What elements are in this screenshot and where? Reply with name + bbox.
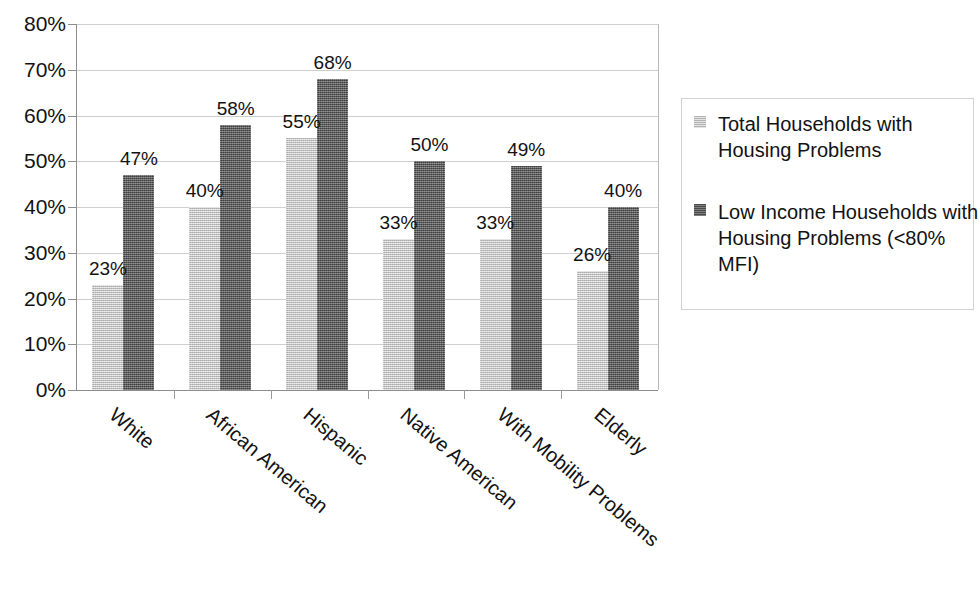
- y-axis-tick-mark: [68, 70, 77, 71]
- legend-item-label: Total Households with Housing Problems: [718, 111, 980, 163]
- bar-value-label: 49%: [498, 140, 554, 159]
- bar-value-label: 40%: [177, 181, 233, 200]
- bar-value-label: 26%: [564, 245, 620, 264]
- x-axis-tick-label: Elderly: [591, 404, 651, 459]
- legend-swatch-icon: [694, 204, 706, 216]
- bar-value-label: 68%: [305, 53, 361, 72]
- y-axis-tick-mark: [68, 116, 77, 117]
- y-axis-tick-mark: [68, 207, 77, 208]
- bar-value-label: 55%: [274, 112, 330, 131]
- legend-swatch-icon: [694, 116, 706, 128]
- x-axis-tick-mark: [271, 390, 272, 399]
- y-axis-tick-mark: [68, 161, 77, 162]
- legend-item-label: Low Income Households with Housing Probl…: [718, 199, 980, 277]
- bar-value-label: 47%: [111, 149, 167, 168]
- y-axis-tick-mark: [68, 24, 77, 25]
- x-axis-tick-mark: [464, 390, 465, 399]
- x-axis-tick-mark: [368, 390, 369, 399]
- y-axis-tick-mark: [68, 253, 77, 254]
- bar-value-label: 50%: [401, 135, 457, 154]
- bar-value-label: 23%: [80, 259, 136, 278]
- x-axis-tick-label: White: [107, 404, 159, 452]
- y-axis-tick-mark: [68, 299, 77, 300]
- x-axis-tick-label: Hispanic: [300, 404, 372, 469]
- y-axis-tick-mark: [68, 344, 77, 345]
- x-axis-tick-mark: [561, 390, 562, 399]
- y-axis-tick-mark: [68, 390, 77, 391]
- x-axis-tick-mark: [174, 390, 175, 399]
- bar-value-label: 33%: [467, 213, 523, 232]
- bar-value-label: 58%: [208, 99, 264, 118]
- legend: Total Households with Housing ProblemsLo…: [681, 98, 974, 310]
- bar-value-label: 40%: [595, 181, 651, 200]
- x-axis-tick-label: With Mobility Problems: [494, 404, 663, 550]
- bar-value-label: 33%: [370, 213, 426, 232]
